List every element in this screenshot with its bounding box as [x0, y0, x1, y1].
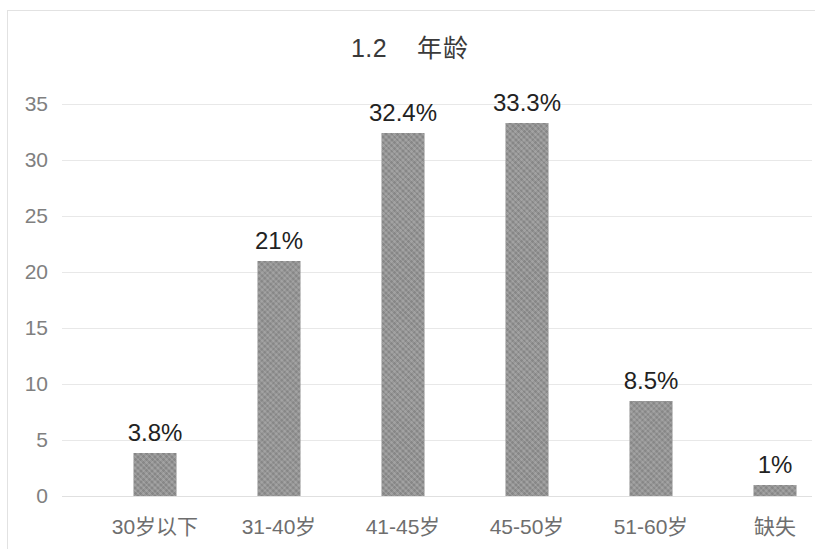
bar-value-label-2: 32.4% — [369, 99, 437, 127]
bar-group-4: 8.5% 51-60岁 — [620, 104, 682, 496]
bar-41-45岁[interactable] — [382, 133, 425, 496]
bar-51-60岁[interactable] — [630, 401, 673, 496]
bar-31-40岁[interactable] — [258, 261, 301, 496]
y-axis-tick-35: 35 — [25, 92, 48, 116]
x-axis-tick-4: 51-60岁 — [614, 510, 689, 540]
y-axis-tick-25: 25 — [25, 204, 48, 228]
bar-value-label-1: 21% — [255, 227, 303, 255]
bar-group-1: 21% 31-40岁 — [248, 104, 310, 496]
gridline-0-baseline: 0 — [62, 496, 812, 497]
y-axis-tick-5: 5 — [36, 428, 48, 452]
y-axis-tick-10: 10 — [25, 372, 48, 396]
chart-title: 1.2 年龄 — [0, 28, 819, 64]
bar-group-5: 1% 缺失 — [744, 104, 806, 496]
x-axis-tick-5: 缺失 — [754, 510, 796, 540]
plot-area: 35 30 25 20 15 10 5 0 3.8% 30岁以下 — [62, 104, 812, 496]
bar-group-2: 32.4% 41-45岁 — [372, 104, 434, 496]
x-axis-tick-0: 30岁以下 — [112, 510, 198, 540]
bar-value-label-4: 8.5% — [624, 367, 679, 395]
bar-value-label-5: 1% — [758, 451, 793, 479]
bar-value-label-0: 3.8% — [128, 419, 183, 447]
bar-45-50岁[interactable] — [506, 123, 549, 496]
x-axis-tick-1: 31-40岁 — [242, 510, 317, 540]
y-axis-tick-0: 0 — [36, 484, 48, 508]
bar-value-label-3: 33.3% — [493, 89, 561, 117]
bar-缺失[interactable] — [754, 485, 797, 496]
y-axis-tick-20: 20 — [25, 260, 48, 284]
bar-group-3: 33.3% 45-50岁 — [496, 104, 558, 496]
y-axis-tick-30: 30 — [25, 148, 48, 172]
y-axis-tick-15: 15 — [25, 316, 48, 340]
bar-group-0: 3.8% 30岁以下 — [124, 104, 186, 496]
x-axis-tick-3: 45-50岁 — [490, 510, 565, 540]
bar-chart-figure: 1.2 年龄 35 30 25 20 15 10 5 0 3.8% — [0, 0, 819, 552]
bar-30岁以下[interactable] — [134, 453, 177, 496]
x-axis-tick-2: 41-45岁 — [366, 510, 441, 540]
